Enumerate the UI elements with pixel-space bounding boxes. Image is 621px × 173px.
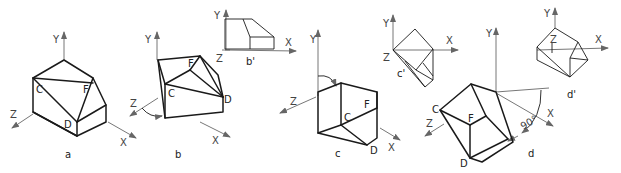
figure-d: Y Z X C F D 90° d bbox=[425, 28, 554, 169]
axis-label-z: Z bbox=[383, 52, 390, 63]
axis-label-x: X bbox=[388, 142, 395, 153]
axis-label-z: Z bbox=[550, 34, 557, 45]
caption-c: c bbox=[335, 148, 341, 159]
point-label-f: F bbox=[83, 84, 89, 95]
axis-label-y: Y bbox=[382, 18, 390, 29]
point-label-d: D bbox=[224, 94, 232, 105]
axis-label-z: Z bbox=[290, 96, 297, 107]
figure-c-prime: Y X Z c' bbox=[382, 15, 458, 87]
point-label-f: F bbox=[364, 99, 370, 110]
axis-label-x: X bbox=[120, 137, 127, 148]
z-axis-arrow bbox=[280, 97, 316, 113]
axis-label-y: Y bbox=[144, 34, 152, 45]
figure-b: Y Z X C F D b bbox=[130, 32, 232, 160]
caption-d: d bbox=[528, 148, 534, 159]
axis-label-x: X bbox=[446, 35, 453, 46]
axis-label-x: X bbox=[547, 108, 554, 119]
point-label-c: C bbox=[168, 88, 175, 99]
rotation-arc bbox=[318, 76, 336, 86]
axis-label-y: Y bbox=[543, 8, 551, 19]
point-label-f: F bbox=[188, 58, 194, 69]
figure-b-prime: Y X Z b' bbox=[213, 10, 296, 67]
caption-d-prime: d' bbox=[567, 89, 576, 100]
figure-c: Y Z X C F D c bbox=[280, 30, 400, 159]
solid-d bbox=[440, 84, 513, 162]
caption-c-prime: c' bbox=[397, 68, 405, 79]
figure-a: Y Z X C F D a bbox=[10, 32, 136, 160]
caption-a: a bbox=[65, 149, 71, 160]
point-label-d: D bbox=[460, 158, 468, 169]
axis-label-y: Y bbox=[309, 34, 317, 45]
point-label-d: D bbox=[370, 145, 378, 156]
point-label-d: D bbox=[64, 119, 72, 130]
axis-label-z: Z bbox=[216, 53, 223, 64]
x-axis-arrow bbox=[225, 50, 296, 51]
axis-label-z: Z bbox=[426, 118, 433, 129]
figure-d-prime: Y Z X d' bbox=[537, 8, 608, 100]
point-label-c: C bbox=[432, 104, 439, 115]
x-axis-arrow bbox=[537, 48, 608, 50]
x-axis-arrow bbox=[108, 122, 136, 138]
axis-label-x: X bbox=[212, 135, 219, 146]
point-label-f: F bbox=[468, 113, 474, 124]
axis-label-x: X bbox=[285, 37, 292, 48]
point-label-c: C bbox=[344, 112, 351, 123]
caption-b-prime: b' bbox=[246, 56, 255, 67]
elevation-b-prime bbox=[225, 19, 274, 49]
x-axis-arrow bbox=[380, 128, 400, 140]
axis-label-x: X bbox=[595, 34, 602, 45]
caption-b: b bbox=[175, 149, 181, 160]
axis-label-y: Y bbox=[485, 28, 493, 39]
axis-label-y: Y bbox=[52, 34, 60, 45]
axis-label-z: Z bbox=[130, 98, 137, 109]
axis-label-y: Y bbox=[213, 10, 221, 21]
elevation-d-prime bbox=[537, 28, 588, 77]
diagram-canvas: Y Z X C F D a Y Z X C F D b bbox=[0, 0, 621, 173]
rotation-arc bbox=[142, 108, 162, 116]
point-label-c: C bbox=[36, 84, 43, 95]
axis-label-z: Z bbox=[10, 109, 17, 120]
